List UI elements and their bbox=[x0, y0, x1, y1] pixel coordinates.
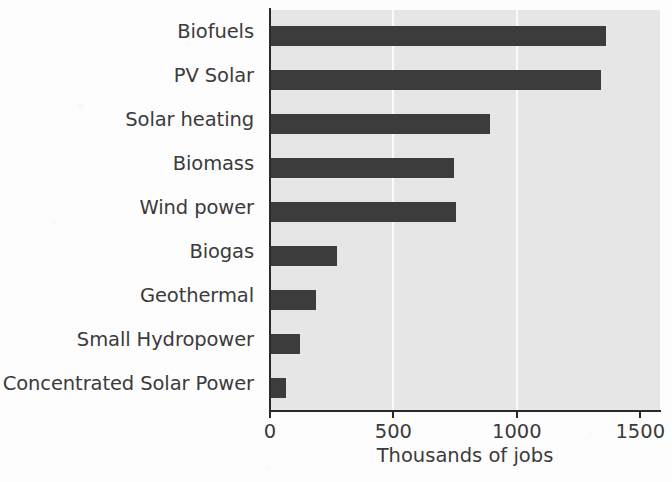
x-axis-title: Thousands of jobs bbox=[270, 444, 660, 467]
x-tick-label-1000: 1000 bbox=[492, 420, 542, 443]
plot-area bbox=[270, 10, 660, 410]
bar-geothermal bbox=[270, 290, 316, 310]
x-tick-label-500: 500 bbox=[375, 420, 412, 443]
category-label-solar-heating: Solar heating bbox=[0, 98, 263, 142]
bar-biogas bbox=[270, 246, 337, 266]
x-axis-line bbox=[269, 410, 661, 412]
bar-pv-solar bbox=[270, 70, 601, 90]
x-tick-mark-1000 bbox=[516, 410, 518, 418]
bar-wind-power bbox=[270, 202, 456, 222]
x-tick-label-1500: 1500 bbox=[615, 420, 665, 443]
bar-solar-heating bbox=[270, 114, 490, 134]
category-label-biofuels: Biofuels bbox=[0, 10, 263, 54]
category-label-wind-power: Wind power bbox=[0, 186, 263, 230]
category-label-pv-solar: PV Solar bbox=[0, 54, 263, 98]
category-axis-labels: Biofuels PV Solar Solar heating Biomass … bbox=[0, 10, 263, 410]
x-tick-mark-500 bbox=[392, 410, 394, 418]
bar-biofuels bbox=[270, 26, 606, 46]
bar-biomass bbox=[270, 158, 454, 178]
bar-chart-figure: Biofuels PV Solar Solar heating Biomass … bbox=[0, 0, 672, 482]
x-tick-mark-0 bbox=[269, 410, 271, 418]
category-label-concentrated-solar-power: Concentrated Solar Power bbox=[0, 362, 263, 406]
category-label-biomass: Biomass bbox=[0, 142, 263, 186]
category-label-biogas: Biogas bbox=[0, 230, 263, 274]
bar-concentrated-solar-power bbox=[270, 378, 286, 398]
x-tick-mark-1500 bbox=[639, 410, 641, 418]
x-tick-label-0: 0 bbox=[264, 420, 276, 443]
bar-small-hydropower bbox=[270, 334, 300, 354]
category-label-geothermal: Geothermal bbox=[0, 274, 263, 318]
y-axis-line bbox=[269, 8, 271, 412]
category-label-small-hydropower: Small Hydropower bbox=[0, 318, 263, 362]
